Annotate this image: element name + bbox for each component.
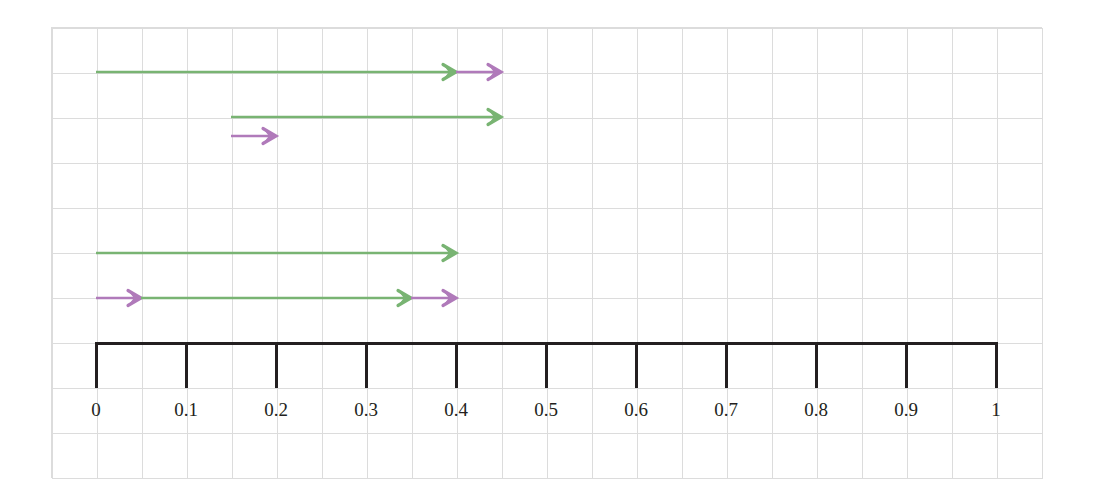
- jump-arrows-layer: [0, 0, 1096, 500]
- jump-arrow-purple-r1-s2: [456, 65, 501, 80]
- number-line-figure: 00.10.20.30.40.50.60.70.80.91: [0, 0, 1096, 500]
- jump-arrow-green-r5-s2: [141, 291, 411, 306]
- jump-arrow-purple-r5-s3: [411, 291, 456, 306]
- jump-arrow-green-r1-s1: [96, 65, 456, 80]
- jump-arrow-purple-r5-s1: [96, 291, 141, 306]
- jump-arrow-purple-r3-s1: [231, 129, 276, 144]
- jump-arrow-green-r4-s1: [96, 246, 456, 261]
- jump-arrow-green-r2-s1: [231, 110, 501, 125]
